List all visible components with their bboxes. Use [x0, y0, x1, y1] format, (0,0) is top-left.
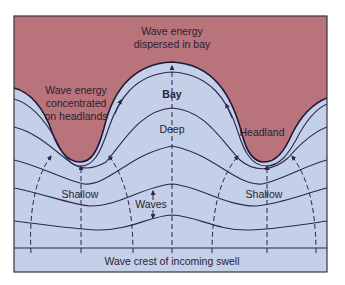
label-dispersed-1: Wave energy — [141, 25, 203, 37]
label-shallow-left: Shallow — [62, 188, 99, 200]
label-bay: Bay — [162, 88, 181, 100]
label-concentrated-3: on headlands — [44, 110, 107, 122]
label-concentrated-2: concentrated — [46, 97, 107, 109]
wave-refraction-diagram: Wave energy dispersed in bay Wave energy… — [0, 0, 345, 285]
label-swell: Wave crest of incoming swell — [105, 255, 240, 267]
label-deep: Deep — [159, 123, 184, 135]
label-waves: Waves — [135, 198, 167, 210]
label-dispersed-2: dispersed in bay — [134, 38, 211, 50]
label-shallow-right: Shallow — [246, 188, 283, 200]
label-concentrated-1: Wave energy — [45, 84, 107, 96]
label-headland: Headland — [240, 126, 285, 138]
